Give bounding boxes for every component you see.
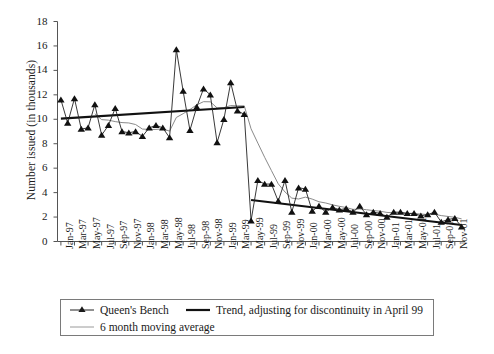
x-tick-label-sep-00: Sep-00 [364,220,374,248]
x-tick-label-mar-98: Mar-98 [160,219,170,249]
chart-legend: Queen's Bench Trend, adjusting for disco… [60,299,434,336]
y-tick-label-16: 16 [26,40,48,51]
x-tick-label-sep-98: Sep-98 [201,220,211,248]
thick-line-icon [185,304,211,316]
figure-container: Number issued (in thousands) 02468101214… [0,0,494,354]
legend-item-moving-average[interactable]: 6 month moving average [69,318,215,336]
x-tick-label-jul-99: Jul-99 [269,224,279,249]
x-tick-label-jul-01: Jul-01 [432,224,442,249]
x-tick-label-jan-01: Jan-01 [391,222,401,249]
caption-partial [30,345,460,354]
x-tick-label-nov-01: Nov-01 [459,218,469,249]
y-tick-label-2: 2 [26,211,48,222]
x-tick-label-jan-00: Jan-00 [309,222,319,249]
x-tick-label-may-99: May-99 [255,217,265,249]
trend-line [61,107,462,225]
y-tick-label-12: 12 [26,89,48,100]
x-tick-label-jul-98: Jul-98 [187,224,197,249]
x-tick-label-jan-99: Jan-99 [228,222,238,249]
legend-label-moving-average: 6 month moving average [100,321,215,333]
legend-row-2: 6 month moving average [61,318,433,336]
axis-lines [58,22,466,242]
x-tick-label-may-98: May-98 [174,217,184,249]
y-tick-label-10: 10 [26,113,48,124]
y-tick-label-8: 8 [26,138,48,149]
x-tick-label-nov-99: Nov-99 [296,218,306,249]
x-tick-label-jul-00: Jul-00 [350,224,360,249]
y-tick-label-4: 4 [26,187,48,198]
x-tick-label-mar-97: Mar-97 [78,219,88,249]
x-tick-label-sep-01: Sep-01 [445,220,455,248]
x-tick-label-may-00: May-00 [337,217,347,249]
x-tick-label-may-97: May-97 [92,217,102,249]
x-tick-label-mar-00: Mar-00 [323,219,333,249]
x-tick-label-nov-97: Nov-97 [133,218,143,249]
x-tick-label-may-01: May-01 [418,217,428,249]
x-tick-label-jul-97: Jul-97 [106,224,116,249]
x-tick-label-mar-01: Mar-01 [404,219,414,249]
x-tick-label-nov-98: Nov-98 [214,218,224,249]
x-tick-label-mar-99: Mar-99 [241,219,251,249]
legend-item-queens-bench[interactable]: Queen's Bench [69,301,169,319]
legend-item-trend[interactable]: Trend, adjusting for discontinuity in Ap… [185,301,423,319]
x-tick-label-jan-97: Jan-97 [65,222,75,249]
y-tick-label-18: 18 [26,16,48,27]
line-with-triangle-marker-icon [69,304,95,316]
y-tick-label-0: 0 [26,236,48,247]
legend-row-1: Queen's Bench Trend, adjusting for disco… [61,301,433,319]
legend-label-queens-bench: Queen's Bench [100,304,169,316]
x-tick-label-sep-97: Sep-97 [119,220,129,248]
x-tick-label-sep-99: Sep-99 [282,220,292,248]
legend-label-trend: Trend, adjusting for discontinuity in Ap… [216,304,423,316]
y-tick-label-6: 6 [26,162,48,173]
thin-line-icon [69,321,95,333]
y-tick-label-14: 14 [26,64,48,75]
x-tick-label-jan-98: Jan-98 [146,222,156,249]
x-tick-label-nov-00: Nov-00 [377,218,387,249]
